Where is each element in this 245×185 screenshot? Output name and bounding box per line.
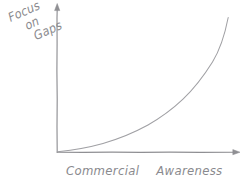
y-axis-arrow-icon — [55, 4, 60, 11]
x-axis-label-word-1: Commercial — [66, 163, 139, 178]
x-axis-label-word-2: Awareness — [156, 163, 222, 178]
x-axis-label: Commercial Awareness — [66, 163, 222, 178]
hand-drawn-chart: Focus on Gaps Commercial Awareness — [0, 0, 245, 185]
x-axis-group — [57, 150, 240, 155]
exponential-curve — [58, 18, 228, 152]
x-axis-arrow-icon — [233, 150, 240, 155]
